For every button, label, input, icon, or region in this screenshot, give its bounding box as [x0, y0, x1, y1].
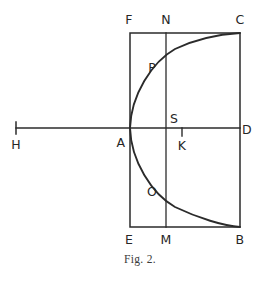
- vertex-label-K: K: [178, 140, 186, 153]
- vertex-label-F: F: [125, 14, 132, 27]
- vertex-label-D: D: [242, 124, 252, 137]
- vertex-label-P: P: [148, 62, 156, 75]
- vertex-label-H: H: [11, 139, 21, 152]
- vertex-label-A: A: [117, 137, 126, 150]
- figure-caption: Fig. 2.: [124, 253, 156, 265]
- vertex-label-S: S: [170, 113, 178, 126]
- vertex-label-E: E: [125, 234, 133, 247]
- vertex-label-O: O: [147, 186, 157, 199]
- vertex-label-N: N: [161, 14, 171, 27]
- figure-container: F N C P S H A K D O E M B Fig. 2.: [0, 0, 264, 281]
- vertex-label-M: M: [161, 234, 172, 247]
- curve-upper-branch-apc: [130, 33, 240, 128]
- vertex-label-B: B: [236, 234, 245, 247]
- vertex-label-C: C: [236, 14, 245, 27]
